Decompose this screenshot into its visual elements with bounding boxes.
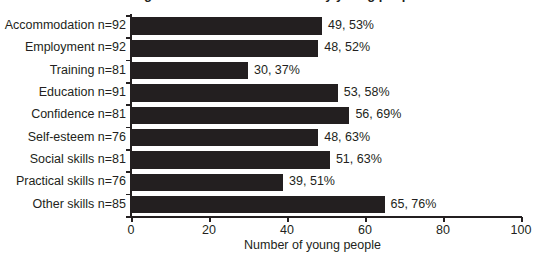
bar	[131, 151, 330, 168]
bar-row: Accommodation n=9249, 53%	[131, 15, 521, 37]
category-label: Practical skills n=76	[16, 171, 126, 192]
bar-value-label: 53, 58%	[344, 83, 390, 102]
chart-title: Figure 4: Outcomes achieved by young peo…	[0, 0, 553, 3]
bar-value-label: 30, 37%	[254, 61, 300, 80]
bar	[131, 174, 283, 191]
bar-row: Social skills n=8151, 63%	[131, 149, 521, 171]
x-axis-tick	[443, 217, 445, 222]
x-axis-tick-label: 40	[257, 223, 317, 237]
bar-value-label: 49, 53%	[328, 16, 374, 35]
category-label: Education n=91	[39, 82, 126, 103]
bar-value-label: 56, 69%	[355, 105, 401, 124]
x-axis-tick-label: 0	[101, 223, 161, 237]
x-axis-tick	[131, 217, 133, 222]
x-axis-tick-label: 20	[179, 223, 239, 237]
bar	[131, 129, 318, 146]
plot-area: Accommodation n=9249, 53%Employment n=92…	[131, 15, 521, 216]
bar	[131, 40, 318, 57]
x-axis-tick	[287, 217, 289, 222]
x-axis-tick-label: 60	[335, 223, 395, 237]
x-axis-tick	[209, 217, 211, 222]
x-axis-label: Number of young people	[0, 238, 553, 252]
bar-value-label: 48, 63%	[324, 128, 370, 147]
bar-row: Training n=8130, 37%	[131, 60, 521, 82]
bar-value-label: 48, 52%	[324, 38, 370, 57]
category-label: Accommodation n=92	[5, 15, 126, 36]
category-label: Self-esteem n=76	[28, 127, 126, 148]
x-axis-line	[130, 216, 522, 218]
x-axis-tick-label: 100	[491, 223, 551, 237]
bar-value-label: 65, 76%	[391, 195, 437, 214]
bar	[131, 17, 322, 34]
category-label: Social skills n=81	[30, 149, 126, 170]
bar	[131, 62, 248, 79]
bar	[131, 196, 385, 213]
bar-value-label: 39, 51%	[289, 172, 335, 191]
bar	[131, 107, 349, 124]
category-label: Training n=81	[50, 60, 126, 81]
category-label: Other skills n=85	[33, 194, 126, 215]
bar-row: Practical skills n=7639, 51%	[131, 171, 521, 193]
bar-value-label: 51, 63%	[336, 150, 382, 169]
x-axis-tick	[521, 217, 523, 222]
category-label: Confidence n=81	[31, 104, 126, 125]
bar-chart-figure: Figure 4: Outcomes achieved by young peo…	[0, 0, 553, 264]
bar-row: Employment n=9248, 52%	[131, 37, 521, 59]
x-axis-tick	[365, 217, 367, 222]
bar	[131, 84, 338, 101]
category-label: Employment n=92	[25, 37, 126, 58]
bar-row: Education n=9153, 58%	[131, 82, 521, 104]
x-axis-tick-label: 80	[413, 223, 473, 237]
bar-row: Self-esteem n=7648, 63%	[131, 127, 521, 149]
bar-row: Confidence n=8156, 69%	[131, 104, 521, 126]
bar-row: Other skills n=8565, 76%	[131, 194, 521, 216]
